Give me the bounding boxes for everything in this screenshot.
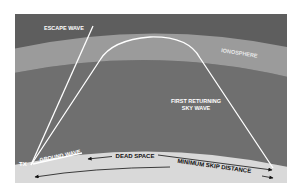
escape-wave-label: ESCAPE WAVE: [44, 25, 84, 31]
dead-space-label: DEAD SPACE: [116, 153, 155, 159]
tx-label: TX: [19, 161, 27, 167]
sky-wave-label-line2: SKY WAVE: [182, 105, 211, 111]
sky-wave-label-line1: FIRST RETURNING: [171, 98, 221, 104]
propagation-diagram: ESCAPE WAVE IONOSPHERE FIRST RETURNING S…: [0, 0, 301, 193]
